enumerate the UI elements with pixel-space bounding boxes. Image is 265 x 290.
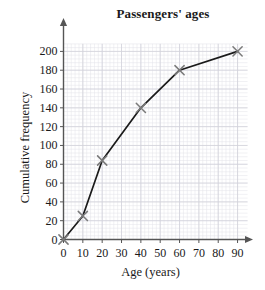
y-tick-label: 140	[40, 102, 58, 114]
y-tick-label: 80	[46, 158, 58, 170]
x-tick-label: 90	[226, 247, 250, 259]
y-tick-label: 120	[40, 121, 58, 133]
cumulative-frequency-chart: Passengers' ages Cumulative frequency Ag…	[0, 0, 265, 290]
minor-gridlines	[64, 44, 248, 240]
y-tick-label: 20	[46, 215, 58, 227]
y-tick-label: 160	[40, 83, 58, 95]
y-tick-label: 40	[46, 196, 58, 208]
y-tick-label: 60	[46, 177, 58, 189]
y-tick-label: 0	[52, 234, 58, 246]
y-tick-label: 100	[40, 139, 58, 151]
y-tick-label: 200	[40, 45, 58, 57]
y-tick-label: 180	[40, 64, 58, 76]
